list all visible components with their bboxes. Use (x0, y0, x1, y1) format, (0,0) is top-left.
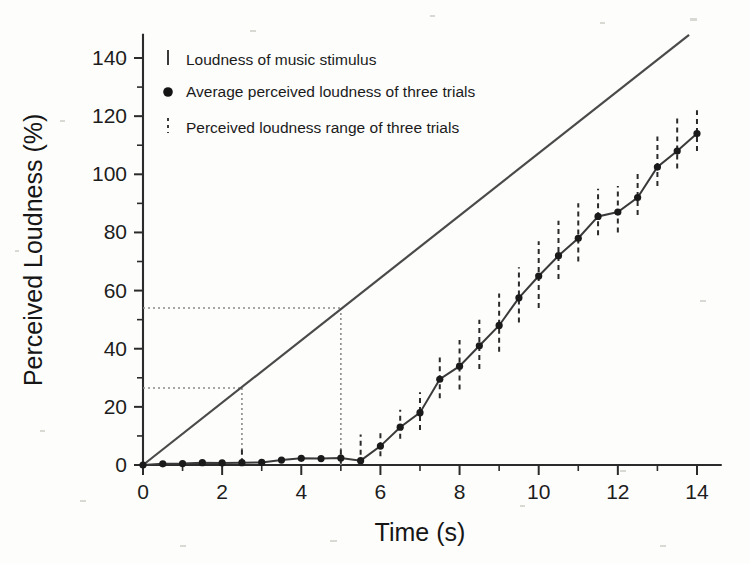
paper-speck-9 (620, 470, 626, 472)
paper-speck-11 (430, 15, 435, 17)
paper-speck-4 (700, 300, 706, 302)
mean-point-t9.5 (515, 294, 522, 301)
mean-point-t4.5 (317, 455, 324, 462)
filled-circle-icon (163, 87, 173, 97)
mean-point-t5.5 (357, 457, 364, 464)
y-tick-label-140: 140 (92, 46, 127, 69)
mean-point-t2.5 (238, 459, 245, 466)
paper-speck-5 (80, 500, 86, 502)
mean-point-t6 (377, 443, 384, 450)
paper-speck-2 (250, 30, 256, 32)
mean-point-t5 (337, 454, 344, 461)
y-tick-label-120: 120 (92, 104, 127, 127)
mean-point-t1 (179, 460, 186, 467)
x-tick-label-10: 10 (527, 480, 550, 503)
mean-point-t2 (219, 459, 226, 466)
mean-point-t8.5 (476, 342, 483, 349)
mean-point-t3 (258, 459, 265, 466)
x-tick-label-4: 4 (295, 480, 307, 503)
mean-point-t7 (416, 409, 423, 416)
chart-container: 02040608010012014002468101214Time (s)Per… (0, 0, 750, 564)
mean-point-t1.5 (199, 459, 206, 466)
paper-speck-0 (690, 18, 697, 21)
paper-speck-8 (40, 430, 45, 432)
mean-point-t13 (654, 163, 661, 170)
y-tick-label-0: 0 (115, 453, 127, 476)
y-tick-label-80: 80 (104, 220, 127, 243)
perceived-loudness-chart: 02040608010012014002468101214Time (s)Per… (0, 0, 750, 564)
y-axis-title: Perceived Loudness (%) (19, 114, 47, 386)
mean-point-t10.5 (555, 252, 562, 259)
x-tick-label-14: 14 (685, 480, 709, 503)
mean-point-t14 (693, 130, 700, 137)
x-axis-title: Time (s) (375, 518, 466, 546)
mean-point-t13.5 (674, 147, 681, 154)
legend-label-1: Average perceived loudness of three tria… (186, 83, 475, 100)
mean-point-t0 (139, 461, 146, 468)
x-tick-label-12: 12 (606, 480, 629, 503)
mean-point-t11 (575, 235, 582, 242)
legend-label-2: Perceived loudness range of three trials (186, 119, 459, 136)
mean-point-t4 (298, 455, 305, 462)
y-tick-label-100: 100 (92, 162, 127, 185)
y-tick-label-20: 20 (104, 395, 127, 418)
mean-point-t12 (614, 208, 621, 215)
mean-point-t3.5 (278, 456, 285, 463)
paper-speck-13 (660, 545, 666, 547)
mean-point-t11.5 (594, 213, 601, 220)
mean-point-t6.5 (397, 424, 404, 431)
y-tick-label-60: 60 (104, 279, 127, 302)
legend-label-0: Loudness of music stimulus (186, 51, 377, 68)
mean-point-t12.5 (634, 194, 641, 201)
y-tick-label-40: 40 (104, 337, 127, 360)
paper-speck-1 (600, 22, 605, 24)
mean-point-t7.5 (436, 376, 443, 383)
paper-speck-7 (520, 505, 525, 507)
x-tick-label-2: 2 (216, 480, 228, 503)
mean-point-t8 (456, 363, 463, 370)
mean-point-t10 (535, 272, 542, 279)
mean-point-t9 (496, 322, 503, 329)
x-tick-label-0: 0 (137, 480, 149, 503)
paper-speck-10 (180, 545, 186, 547)
x-tick-label-6: 6 (375, 480, 387, 503)
paper-speck-6 (330, 540, 337, 542)
x-tick-label-8: 8 (454, 480, 466, 503)
paper-speck-3 (60, 120, 65, 122)
mean-point-t0.5 (159, 460, 166, 467)
